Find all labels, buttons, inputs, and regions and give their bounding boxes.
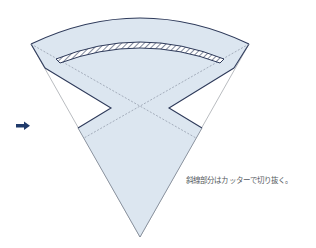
arrow-right-icon [16,122,30,131]
fan-template-diagram [0,0,316,248]
cut-instruction-note: 斜線部分はカッターで切り抜く。 [186,174,293,185]
fan-body [31,18,249,237]
